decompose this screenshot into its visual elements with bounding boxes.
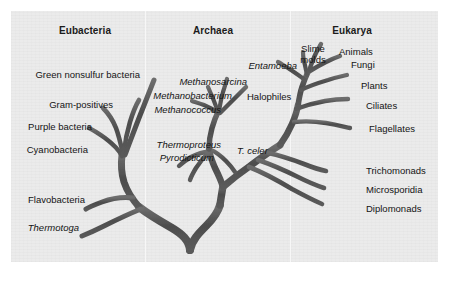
taxon-label-trichomonads: Trichomonads — [366, 165, 426, 176]
taxon-label-diplomonads: Diplomonads — [366, 203, 421, 214]
taxon-label-methanococcus: Methanococcus — [154, 104, 221, 115]
taxon-label-microsporidia: Microsporidia — [366, 184, 423, 195]
taxon-label-plants: Plants — [361, 80, 387, 91]
taxon-label-methanosarcina: Methanosarcina — [179, 76, 247, 87]
taxon-label-slime-molds-line2: molds — [300, 54, 325, 65]
domain-header-eukarya: Eukarya — [332, 25, 372, 36]
taxon-label-cyanobacteria: Cyanobacteria — [27, 144, 88, 155]
taxon-label-fungi: Fungi — [351, 59, 375, 70]
taxon-label-green-nonsulfur-bacteria: Green nonsulfur bacteria — [35, 69, 140, 80]
taxon-label-methanobacterium: Methanobacterium — [153, 90, 232, 101]
taxon-label-flavobacteria: Flavobacteria — [28, 194, 85, 205]
domain-header-eubacteria: Eubacteria — [59, 25, 111, 36]
taxon-label-animals: Animals — [339, 46, 373, 57]
figure-page: Eubacteria Archaea Eukarya Green nonsulf… — [0, 0, 452, 294]
taxon-label-gram-positives: Gram-positives — [49, 99, 113, 110]
taxon-label-thermotoga: Thermotoga — [28, 222, 79, 233]
taxon-label-thermoproteus: Thermoproteus — [157, 139, 221, 150]
taxon-label-purple-bacteria: Purple bacteria — [28, 121, 92, 132]
domain-divider-archaea-eukarya — [290, 11, 291, 262]
domain-divider-eubacteria-archaea — [145, 11, 146, 262]
taxon-label-entamoeba: Entamoeba — [248, 60, 297, 71]
taxon-label-halophiles: Halophiles — [247, 91, 291, 102]
taxon-label-pyrodicticum: Pyrodicticum — [160, 152, 214, 163]
taxon-label-t-celer: T. celer — [237, 145, 268, 156]
domain-header-archaea: Archaea — [193, 25, 233, 36]
taxon-label-flagellates: Flagellates — [369, 123, 415, 134]
taxon-label-ciliates: Ciliates — [366, 100, 397, 111]
taxon-label-slime-molds-line1: Slime — [301, 43, 325, 54]
